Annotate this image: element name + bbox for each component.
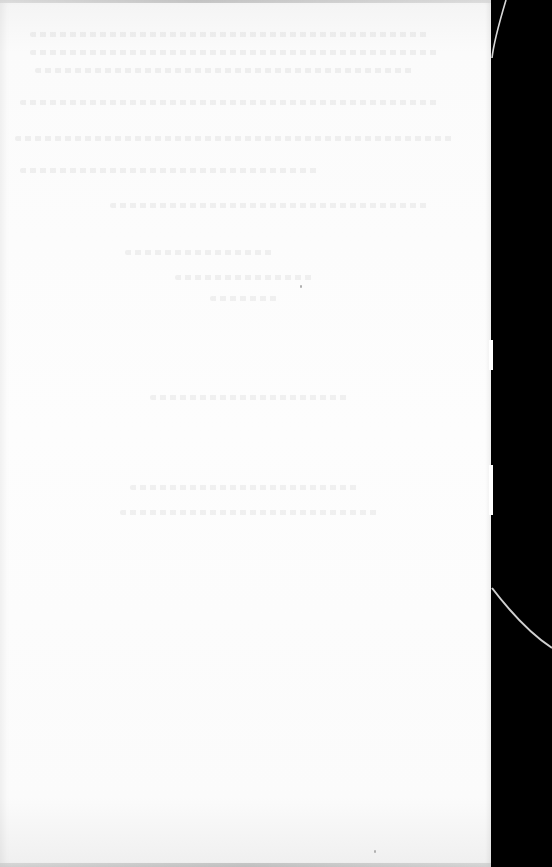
cable-curve	[0, 0, 552, 867]
